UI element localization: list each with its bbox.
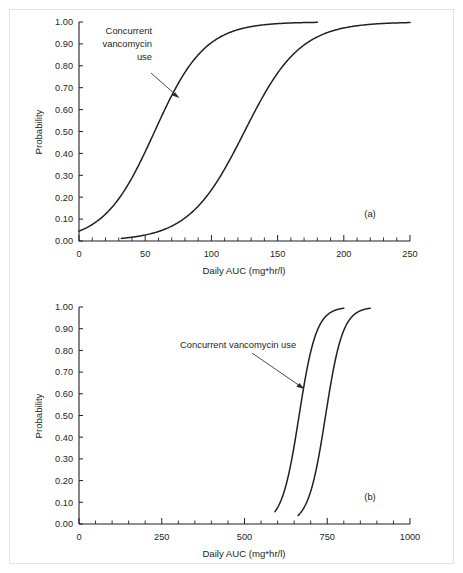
panel-b: 0.000.100.200.300.400.500.600.700.800.90… bbox=[0, 285, 463, 573]
y-tick-label: 0.70 bbox=[55, 367, 73, 377]
panel-a-plot: 0.000.100.200.300.400.500.600.700.800.90… bbox=[0, 0, 463, 290]
y-tick-label: 1.00 bbox=[55, 302, 73, 312]
y-tick-label: 0.90 bbox=[55, 324, 73, 334]
panel-b-y-axis-label: Probability bbox=[33, 393, 44, 438]
x-tick-label: 50 bbox=[140, 249, 150, 259]
y-tick-label: 0.80 bbox=[55, 346, 73, 356]
x-tick-label: 0 bbox=[76, 249, 81, 259]
annotation-line: use bbox=[137, 51, 152, 62]
curve-without-concurrent-vancomycin-use bbox=[298, 308, 370, 515]
y-tick-label: 0.30 bbox=[55, 454, 73, 464]
y-tick-label: 0.20 bbox=[55, 193, 73, 203]
panel-a-tag: (a) bbox=[364, 208, 375, 219]
panel-a: 0.000.100.200.300.400.500.600.700.800.90… bbox=[0, 0, 463, 290]
y-tick-label: 0.80 bbox=[55, 61, 73, 71]
panel-a-y-axis-label: Probability bbox=[33, 109, 44, 154]
y-tick-label: 0.20 bbox=[55, 476, 73, 486]
y-tick-label: 0.10 bbox=[55, 498, 73, 508]
panel-a-curves bbox=[79, 22, 410, 238]
annotation-line: Concurrent vancomycin use bbox=[180, 339, 296, 350]
x-tick-label: 150 bbox=[270, 249, 285, 259]
x-tick-label: 100 bbox=[204, 249, 219, 259]
x-tick-label: 250 bbox=[154, 532, 169, 542]
panel-b-x-ticks: 02505007501000 bbox=[76, 518, 420, 542]
y-tick-label: 0.60 bbox=[55, 389, 73, 399]
x-tick-label: 0 bbox=[76, 532, 81, 542]
curve-with-concurrent-vancomycin-use bbox=[79, 22, 317, 231]
panel-b-annotation: Concurrent vancomycin use bbox=[180, 339, 296, 350]
panel-b-annotation-arrow bbox=[252, 353, 304, 389]
y-tick-label: 0.90 bbox=[55, 39, 73, 49]
x-tick-label: 200 bbox=[336, 249, 351, 259]
curve-without-concurrent-vancomycin-use bbox=[121, 23, 410, 239]
x-tick-label: 750 bbox=[320, 532, 335, 542]
y-tick-label: 0.50 bbox=[55, 411, 73, 421]
y-tick-label: 0.70 bbox=[55, 83, 73, 93]
y-tick-label: 0.40 bbox=[55, 433, 73, 443]
x-tick-label: 500 bbox=[237, 532, 252, 542]
x-tick-label: 250 bbox=[402, 249, 417, 259]
annotation-line: vancomycin bbox=[103, 38, 153, 49]
x-tick-label: 1000 bbox=[400, 532, 420, 542]
panel-b-x-axis-label: Daily AUC (mg*hr/l) bbox=[202, 548, 285, 559]
figure-container: 0.000.100.200.300.400.500.600.700.800.90… bbox=[0, 0, 463, 573]
panel-b-plot: 0.000.100.200.300.400.500.600.700.800.90… bbox=[0, 285, 463, 573]
panel-a-x-axis-label: Daily AUC (mg*hr/l) bbox=[202, 265, 285, 276]
y-tick-label: 0.10 bbox=[55, 214, 73, 224]
y-tick-label: 1.00 bbox=[55, 17, 73, 27]
y-tick-label: 0.30 bbox=[55, 171, 73, 181]
y-tick-label: 0.50 bbox=[55, 127, 73, 137]
y-tick-label: 0.00 bbox=[55, 519, 73, 529]
panel-a-annotation: Concurrentvancomycinuse bbox=[103, 25, 153, 62]
panel-b-tag: (b) bbox=[364, 491, 375, 502]
y-tick-label: 0.60 bbox=[55, 105, 73, 115]
panel-a-annotation-arrow bbox=[151, 73, 180, 98]
y-tick-label: 0.00 bbox=[55, 236, 73, 246]
panel-a-x-ticks: 050100150200250 bbox=[76, 235, 417, 259]
y-tick-label: 0.40 bbox=[55, 149, 73, 159]
annotation-arrow-line bbox=[252, 353, 300, 386]
annotation-line: Concurrent bbox=[106, 25, 153, 36]
